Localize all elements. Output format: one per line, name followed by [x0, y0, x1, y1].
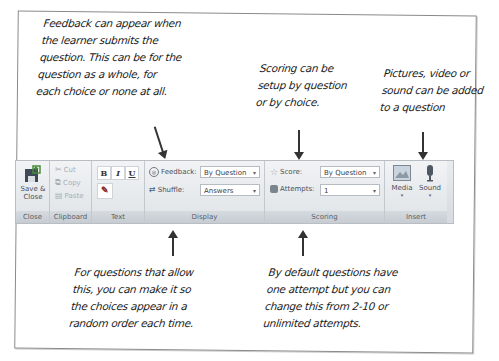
shuffle-label: ⇄ Shuffle: [149, 185, 184, 194]
insert-annotation: Pictures, video or sound can be added to… [379, 65, 486, 116]
attempts-dropdown[interactable]: 1 ▾ [320, 184, 380, 196]
media-button[interactable]: Media ▾ [389, 164, 415, 198]
score-label: ☆ Score: [270, 167, 302, 177]
annotation-line: Scoring can be [259, 60, 350, 77]
annotation-line: or by choice. [255, 94, 346, 111]
shuffle-label-text: Shuffle: [158, 186, 185, 194]
arrow-down-icon [422, 132, 424, 154]
score-dropdown[interactable]: By Question ▾ [320, 166, 380, 178]
arrow-up-icon [302, 236, 304, 256]
picture-icon [393, 165, 411, 181]
paste-button[interactable]: ▤ Paste [55, 191, 83, 200]
text-group: B I U ✎ Text [92, 161, 145, 223]
annotation-line: question. This can be for the [39, 49, 183, 66]
score-label-text: Score: [280, 168, 302, 176]
feedback-label-text: Feedback: [161, 168, 197, 176]
copy-label: Copy [63, 179, 81, 187]
annotation-line: change this from 2-10 or [264, 298, 395, 315]
annotation-line: one attempt but you can [266, 281, 397, 298]
clipboard-group: ✂ Cut ⧉ Copy ▤ Paste Clipboard [50, 161, 92, 223]
group-label: Close [16, 211, 49, 223]
chevron-down-icon: ▾ [253, 167, 256, 179]
feedback-annotation: Feedback can appear when the learner sub… [36, 15, 187, 100]
annotation-line: sound can be added [381, 82, 484, 99]
star-icon: ☆ [270, 167, 278, 177]
shuffle-dropdown[interactable]: Answers ▾ [200, 184, 260, 196]
italic-button[interactable]: I [111, 166, 125, 180]
group-label: Scoring [265, 211, 384, 223]
shuffle-annotation: For questions that allow this, you can m… [68, 264, 200, 332]
chevron-down-icon: ▾ [389, 192, 415, 198]
chevron-down-icon: ▾ [373, 185, 376, 197]
annotation-line: to a question [379, 99, 482, 116]
cut-button[interactable]: ✂ Cut [55, 165, 76, 174]
shuffle-icon: ⇄ [149, 185, 156, 194]
copy-button[interactable]: ⧉ Copy [55, 178, 81, 188]
attempts-icon [270, 185, 278, 193]
copy-icon: ⧉ [55, 178, 61, 188]
annotation-line: this, you can make it so [72, 281, 198, 298]
format-painter-icon: ✎ [101, 185, 109, 195]
shuffle-value: Answers [204, 187, 233, 195]
scoring-group: ☆ Score: By Question ▾ Attempts: 1 ▾ Sco… [265, 161, 385, 223]
annotation-line: question as a whole, for [37, 66, 181, 83]
annotation-line: unlimited attempts. [262, 315, 393, 332]
paste-label: Paste [65, 192, 84, 200]
group-label: Clipboard [50, 211, 91, 223]
annotation-line: the learner submits the [41, 32, 185, 49]
attempts-value: 1 [324, 187, 328, 195]
cut-label: Cut [64, 166, 76, 174]
media-label: Media [389, 184, 415, 192]
annotation-line: Pictures, video or [383, 65, 486, 82]
arrow-up-icon [172, 236, 174, 256]
display-group: ◎ Feedback: By Question ▾ ⇄ Shuffle: Ans… [145, 161, 265, 223]
close-group: Save & Close Close [16, 161, 50, 223]
save-icon [24, 165, 42, 183]
annotation-line: For questions that allow [74, 264, 200, 281]
paste-icon: ▤ [55, 191, 63, 200]
format-painter-button[interactable]: ✎ [97, 183, 113, 199]
save-close-label: Close [19, 193, 47, 201]
annotation-line: Feedback can appear when [43, 15, 187, 32]
chevron-down-icon: ▾ [416, 192, 444, 198]
ribbon-toolbar: Save & Close Close ✂ Cut ⧉ Copy ▤ Paste … [15, 160, 454, 224]
insert-group: Media ▾ Sound ▾ Insert [385, 161, 447, 223]
feedback-icon: ◎ [149, 167, 159, 177]
chevron-down-icon: ▾ [253, 185, 256, 197]
annotation-line: each choice or none at all. [36, 83, 180, 100]
microphone-icon [424, 164, 436, 182]
attempts-annotation: By default questions have one attempt bu… [262, 264, 399, 332]
annotation-line: random order each time. [68, 315, 194, 332]
annotation-line: the choices appear in a [70, 298, 196, 315]
sound-button[interactable]: Sound ▾ [416, 164, 444, 198]
chevron-down-icon: ▾ [373, 167, 376, 179]
underline-button[interactable]: U [125, 166, 139, 180]
annotation-line: setup by question [257, 77, 348, 94]
bold-button[interactable]: B [97, 166, 111, 180]
group-label: Insert [385, 211, 447, 223]
scoring-annotation: Scoring can be setup by question or by c… [255, 60, 350, 111]
feedback-label: ◎ Feedback: [149, 167, 197, 177]
save-close-label: Save & [19, 185, 47, 193]
scissors-icon: ✂ [55, 165, 62, 174]
feedback-value: By Question [204, 169, 246, 177]
group-label: Display [145, 211, 264, 223]
save-close-button[interactable]: Save & Close [19, 164, 47, 208]
attempts-label: Attempts: [270, 185, 314, 193]
feedback-dropdown[interactable]: By Question ▾ [200, 166, 260, 178]
sound-label: Sound [416, 184, 444, 192]
annotation-line: By default questions have [268, 264, 399, 281]
arrow-down-icon [298, 130, 300, 154]
attempts-label-text: Attempts: [280, 185, 314, 193]
group-label: Text [92, 211, 144, 223]
score-value: By Question [324, 169, 366, 177]
